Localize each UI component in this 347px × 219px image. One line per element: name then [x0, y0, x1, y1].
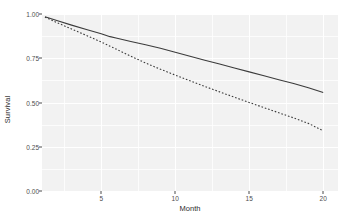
y-axis-title-label: Survival	[4, 96, 13, 123]
y-axis-tick-label: 0.25	[16, 143, 39, 150]
x-axis-title-label: Month	[180, 204, 201, 213]
x-axis-tick-mark	[249, 191, 250, 194]
x-axis-tick-label: 5	[99, 195, 103, 202]
x-axis-tick-label: 10	[172, 195, 179, 202]
x-axis-tick-mark	[101, 191, 102, 194]
y-axis-title: Survival	[0, 0, 16, 219]
survival-plot-figure: Survival 0.000.250.500.751.00 5101520 Mo…	[0, 0, 347, 219]
y-axis-tick-label: 0.50	[16, 99, 39, 106]
y-axis-tick-label: 0.00	[16, 188, 39, 195]
y-axis-tick-label: 1.00	[16, 11, 39, 18]
dashed-curve	[45, 17, 323, 131]
y-axis-tick-labels: 0.000.250.500.751.00	[16, 0, 39, 219]
x-axis-tick-mark	[323, 191, 324, 194]
plot-panel	[42, 14, 338, 191]
solid-curve	[45, 17, 323, 93]
curve-layer	[42, 14, 338, 191]
x-axis-title: Month	[42, 204, 338, 213]
x-axis-tick-label: 20	[320, 195, 327, 202]
x-axis-tick-mark	[175, 191, 176, 194]
y-axis-tick-label: 0.75	[16, 55, 39, 62]
x-axis-tick-label: 15	[246, 195, 253, 202]
